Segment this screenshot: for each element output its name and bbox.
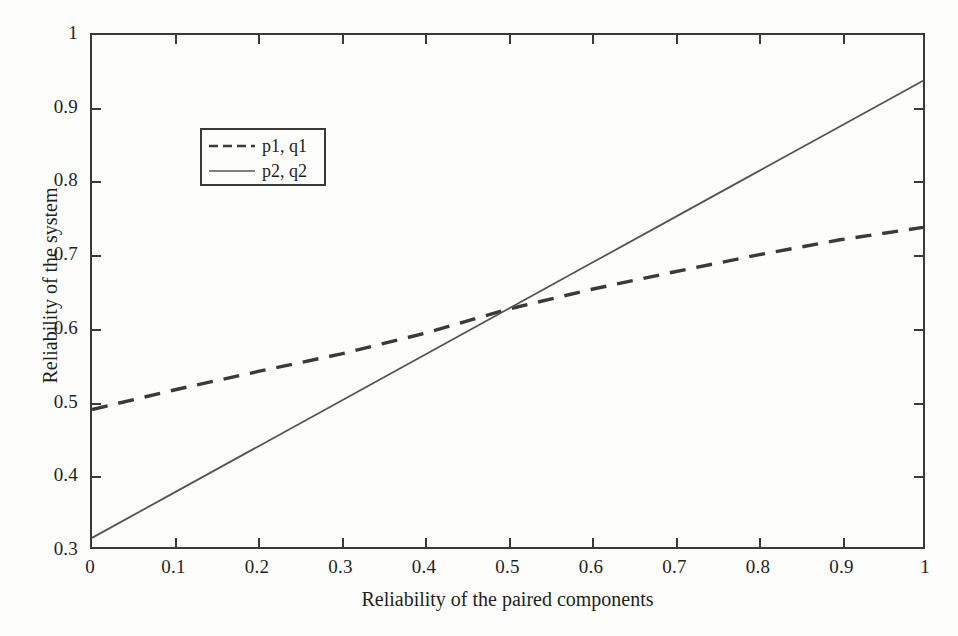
plot-area bbox=[90, 33, 925, 549]
x-tick-top bbox=[425, 35, 427, 44]
x-tick-bottom bbox=[843, 538, 845, 547]
x-tick-bottom bbox=[592, 538, 594, 547]
y-tick-label: 1 bbox=[68, 22, 78, 44]
x-tick-label: 0.1 bbox=[161, 556, 185, 578]
x-tick-top bbox=[258, 35, 260, 44]
x-tick-bottom bbox=[175, 538, 177, 547]
x-tick-label: 0.5 bbox=[495, 556, 519, 578]
x-tick-label: 0.8 bbox=[746, 556, 770, 578]
y-tick-right bbox=[914, 476, 923, 478]
y-tick-right bbox=[914, 255, 923, 257]
x-tick-top bbox=[342, 35, 344, 44]
y-tick-right bbox=[914, 108, 923, 110]
y-tick-right bbox=[914, 181, 923, 183]
x-tick-top bbox=[843, 35, 845, 44]
legend-label-p2q2: p2, q2 bbox=[262, 162, 307, 180]
x-tick-label: 0.3 bbox=[328, 556, 352, 578]
x-tick-bottom bbox=[258, 538, 260, 547]
data-lines bbox=[92, 35, 923, 547]
x-tick-label: 0.4 bbox=[412, 556, 436, 578]
x-tick-top bbox=[759, 35, 761, 44]
x-tick-top bbox=[509, 35, 511, 44]
x-tick-bottom bbox=[759, 538, 761, 547]
chart-legend: p1, q1 p2, q2 bbox=[200, 128, 326, 186]
legend-entry-p2q2: p2, q2 bbox=[208, 158, 318, 183]
x-axis-title: Reliability of the paired components bbox=[90, 588, 925, 611]
x-tick-bottom bbox=[676, 538, 678, 547]
x-tick-bottom bbox=[509, 538, 511, 547]
y-tick-left bbox=[92, 329, 101, 331]
y-tick-left bbox=[92, 476, 101, 478]
legend-entry-p1q1: p1, q1 bbox=[208, 133, 318, 158]
series-line-p1-q1 bbox=[92, 227, 923, 409]
y-tick-left bbox=[92, 255, 101, 257]
x-tick-top bbox=[592, 35, 594, 44]
y-tick-right bbox=[914, 329, 923, 331]
y-tick-label: 0.3 bbox=[54, 538, 78, 560]
x-tick-label: 0.7 bbox=[662, 556, 686, 578]
legend-solid-line-icon bbox=[208, 166, 256, 176]
x-tick-bottom bbox=[425, 538, 427, 547]
legend-dashed-line-icon bbox=[208, 141, 256, 151]
x-tick-top bbox=[676, 35, 678, 44]
legend-label-p1q1: p1, q1 bbox=[262, 137, 307, 155]
x-tick-label: 0.2 bbox=[245, 556, 269, 578]
y-tick-left bbox=[92, 403, 101, 405]
chart-figure: 0.30.40.50.60.70.80.91 Reliability of th… bbox=[0, 0, 958, 636]
x-tick-label: 1 bbox=[920, 556, 930, 578]
y-tick-label: 0.9 bbox=[54, 96, 78, 118]
y-tick-left bbox=[92, 181, 101, 183]
x-tick-top bbox=[175, 35, 177, 44]
x-tick-label: 0 bbox=[85, 556, 95, 578]
y-tick-right bbox=[914, 403, 923, 405]
y-tick-left bbox=[92, 108, 101, 110]
x-tick-label: 0.9 bbox=[829, 556, 853, 578]
x-tick-bottom bbox=[342, 538, 344, 547]
x-tick-label: 0.6 bbox=[579, 556, 603, 578]
y-tick-label: 0.4 bbox=[54, 464, 78, 486]
y-axis-title: Reliability of the system bbox=[39, 136, 62, 436]
